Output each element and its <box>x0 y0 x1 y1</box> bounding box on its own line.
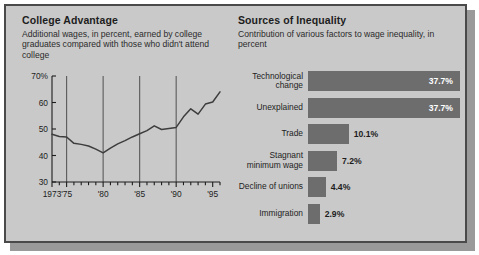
svg-text:60: 60 <box>39 98 49 108</box>
bar-track: 37.7% <box>308 97 464 119</box>
svg-text:50: 50 <box>39 124 49 134</box>
svg-text:'75: '75 <box>61 189 72 199</box>
right-panel-subtitle: Contribution of various factors to wage … <box>238 29 456 50</box>
bar-row: Stagnant minimum wage7.2% <box>238 150 464 172</box>
left-panel-header: College Advantage Additional wages, in p… <box>22 14 222 60</box>
bar-fill <box>308 124 349 144</box>
figure-root: College Advantage Additional wages, in p… <box>0 0 479 255</box>
bar-value-label: 37.7% <box>429 76 453 86</box>
svg-text:'80: '80 <box>98 189 109 199</box>
bar-value-label: 10.1% <box>354 129 378 139</box>
bar-chart: Technological change37.7%Unexplained37.7… <box>238 70 464 229</box>
bar-fill: 37.7% <box>308 71 460 91</box>
line-chart-svg: 3040506070%1973'75'80'85'90'95 <box>22 72 222 212</box>
bar-track: 37.7% <box>308 70 464 92</box>
bar-category-label: Trade <box>238 129 308 138</box>
svg-text:30: 30 <box>39 177 49 187</box>
right-panel-title: Sources of Inequality <box>238 14 456 27</box>
bar-row: Decline of unions4.4% <box>238 176 464 198</box>
bar-track: 4.4% <box>308 176 464 198</box>
bar-value-label: 2.9% <box>325 209 345 219</box>
bar-track: 10.1% <box>308 123 464 145</box>
bar-category-label: Technological change <box>238 72 308 91</box>
svg-text:1973: 1973 <box>43 189 62 199</box>
line-chart: 3040506070%1973'75'80'85'90'95 <box>22 72 222 212</box>
bar-row: Immigration2.9% <box>238 203 464 225</box>
bar-fill <box>308 151 337 171</box>
bar-row: Trade10.1% <box>238 123 464 145</box>
left-panel-title: College Advantage <box>22 14 222 27</box>
bar-category-label: Decline of unions <box>238 182 308 191</box>
left-panel-subtitle: Additional wages, in percent, earned by … <box>22 29 222 60</box>
bar-value-label: 37.7% <box>429 103 453 113</box>
bar-track: 2.9% <box>308 203 464 225</box>
bar-fill <box>308 177 326 197</box>
bar-row: Unexplained37.7% <box>238 97 464 119</box>
bar-fill: 37.7% <box>308 98 460 118</box>
bar-category-label: Immigration <box>238 209 308 218</box>
bar-row: Technological change37.7% <box>238 70 464 92</box>
bar-fill <box>308 204 320 224</box>
bar-category-label: Stagnant minimum wage <box>238 151 308 170</box>
bar-category-label: Unexplained <box>238 103 308 112</box>
bar-value-label: 4.4% <box>331 182 351 192</box>
bar-value-label: 7.2% <box>342 156 362 166</box>
svg-text:'95: '95 <box>207 189 218 199</box>
right-panel-header: Sources of Inequality Contribution of va… <box>238 14 456 50</box>
svg-text:'90: '90 <box>171 189 182 199</box>
svg-text:40: 40 <box>39 151 49 161</box>
svg-text:70%: 70% <box>31 72 48 81</box>
bar-track: 7.2% <box>308 150 464 172</box>
svg-text:'85: '85 <box>134 189 145 199</box>
